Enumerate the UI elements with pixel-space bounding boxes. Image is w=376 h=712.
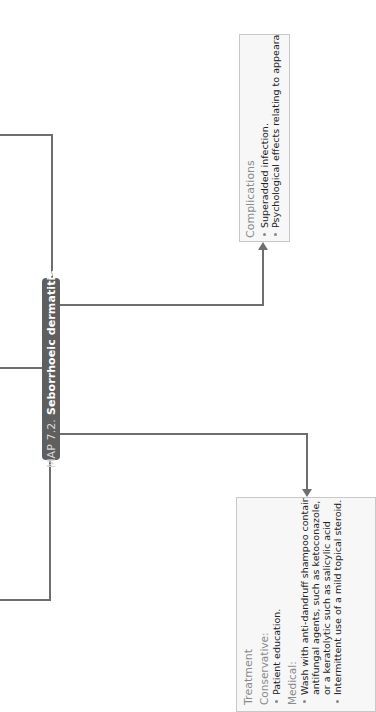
- complications-content: Complications Superadded infection. Psyc…: [245, 38, 281, 238]
- connector-bottom-horizontal: [0, 599, 51, 601]
- list-item: Wash with anti-dandruff shampoo containi…: [299, 497, 332, 705]
- connector-treatment-vertical: [306, 433, 308, 490]
- conservative-list: Patient education.: [271, 497, 282, 705]
- central-node: MAP 7.2.Seborrhoeic dermatitis: [42, 278, 60, 460]
- treatment-heading: Treatment: [243, 497, 254, 705]
- connector-complications-horizontal: [60, 304, 264, 306]
- list-item: Patient education.: [271, 497, 282, 705]
- complications-heading: Complications: [245, 38, 256, 238]
- arrow-to-treatment-icon: [302, 489, 312, 497]
- map-number: MAP 7.2.: [45, 419, 58, 468]
- connector-top-vertical: [51, 134, 53, 278]
- node-title: Seborrhoeic dermatitis: [45, 270, 58, 415]
- treatment-box: Treatment Conservative: Patient educatio…: [236, 497, 376, 712]
- medical-label: Medical:: [287, 497, 298, 705]
- connector-left-branch: [0, 367, 42, 369]
- arrow-to-complications-icon: [258, 242, 268, 250]
- list-item-line: or a keratolytic such as salicylic acid: [321, 497, 332, 695]
- treatment-content: Treatment Conservative: Patient educatio…: [243, 497, 343, 705]
- list-item-line: antifungal agents, such as ketoconazole,: [310, 497, 321, 695]
- list-item: Superadded infection.: [259, 38, 270, 238]
- complications-list: Superadded infection. Psychological effe…: [259, 38, 281, 238]
- connector-complications-vertical: [262, 249, 264, 306]
- complications-box: Complications Superadded infection. Psyc…: [239, 34, 290, 242]
- medical-list: Wash with anti-dandruff shampoo containi…: [299, 497, 343, 705]
- central-node-label: MAP 7.2.Seborrhoeic dermatitis: [45, 270, 58, 468]
- list-item: Psychological effects relating to appear…: [270, 38, 281, 238]
- list-item-line: Wash with anti-dandruff shampoo containi…: [299, 497, 310, 695]
- connector-top-horizontal: [0, 134, 53, 136]
- connector-treatment-horizontal: [60, 433, 308, 435]
- list-item: Intermittent use of a mild topical stero…: [332, 497, 343, 705]
- conservative-label: Conservative:: [259, 497, 270, 705]
- connector-bottom-vertical: [49, 460, 51, 601]
